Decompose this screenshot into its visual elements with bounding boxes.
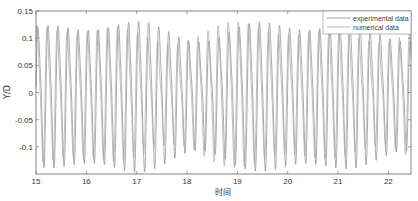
x-tick-label: 21 (334, 177, 343, 186)
y-tick-label: 0 (29, 89, 34, 98)
x-tick-label: 16 (82, 177, 91, 186)
x-tick-label: 17 (132, 177, 141, 186)
x-tick-label: 20 (283, 177, 292, 186)
x-axis-label: 时间 (215, 187, 231, 197)
y-axis-label: Y/D (3, 85, 12, 100)
y-tick-label: -0.1 (19, 143, 33, 152)
y-tick-label: -0.05 (15, 116, 34, 125)
y-tick-label: 0.05 (17, 61, 33, 70)
series-line-numerical (36, 22, 411, 168)
legend-label-experimental: experimental data (353, 15, 409, 23)
x-tick-label: 15 (32, 177, 41, 186)
legend-label-numerical: numerical data (353, 24, 399, 31)
x-tick-label: 19 (233, 177, 242, 186)
y-tick-label: 0.1 (22, 34, 34, 43)
x-tick-label: 22 (384, 177, 393, 186)
plot-lines (36, 21, 411, 172)
x-tick-label: 18 (183, 177, 192, 186)
legend: experimental data numerical data (323, 11, 411, 34)
chart: 1516171819202122 0.150.10.050-0.05-0.1 时… (0, 0, 418, 201)
y-tick-label: 0.15 (17, 7, 33, 16)
